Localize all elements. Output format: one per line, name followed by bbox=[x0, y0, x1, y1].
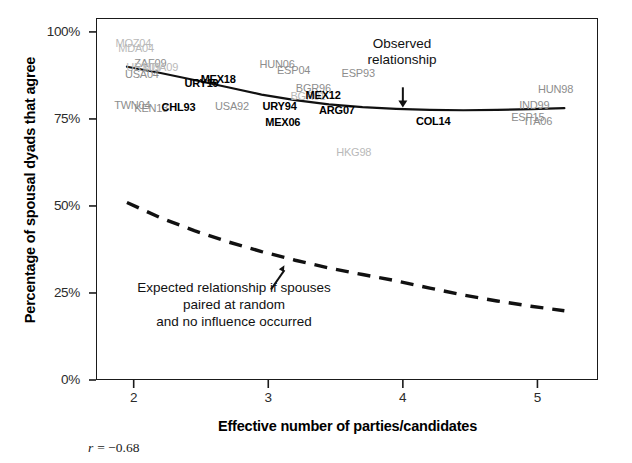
y-axis-tick-label: 50% bbox=[24, 198, 80, 213]
data-point-label: URY94 bbox=[263, 101, 297, 112]
data-point-label: ARG07 bbox=[319, 105, 355, 116]
y-axis-tick-label: 0% bbox=[24, 372, 80, 387]
annotation-observed-relationship: Observed relationship bbox=[337, 36, 467, 68]
x-axis-tick-label: 5 bbox=[517, 390, 557, 405]
data-point-label: ITA06 bbox=[525, 116, 553, 127]
x-axis-tick-label: 4 bbox=[383, 390, 423, 405]
figure-root: Percentage of spousal dyads that agree 0… bbox=[0, 0, 632, 463]
correlation-symbol: r bbox=[88, 440, 93, 455]
y-axis-tick-label: 75% bbox=[24, 111, 80, 126]
annotation-line: and no influence occurred bbox=[118, 314, 350, 331]
annotation-line: paired at random bbox=[118, 297, 350, 314]
annotation-line: Observed bbox=[337, 36, 467, 52]
annotation-line: relationship bbox=[337, 52, 467, 68]
data-point-label: MEX18 bbox=[201, 74, 236, 85]
x-axis-tick-label: 3 bbox=[248, 390, 288, 405]
data-point-label: IND99 bbox=[519, 100, 549, 111]
data-point-label: MEX06 bbox=[265, 117, 300, 128]
data-point-label: MEX12 bbox=[306, 90, 341, 101]
correlation-note: r= −0.68 bbox=[88, 440, 140, 456]
data-point-label: HUN98 bbox=[538, 84, 573, 95]
correlation-value: = −0.68 bbox=[97, 440, 139, 455]
data-point-label: HKG98 bbox=[336, 147, 371, 158]
x-axis-title: Effective number of parties/candidates bbox=[95, 418, 600, 434]
data-point-label: CHL93 bbox=[162, 102, 196, 113]
y-axis-tick-label: 100% bbox=[24, 24, 80, 39]
x-axis-tick-label: 2 bbox=[114, 390, 154, 405]
annotation-expected-relationship: Expected relationship if spouses paired … bbox=[118, 280, 350, 331]
data-point-label: COL14 bbox=[416, 116, 450, 127]
y-axis-tick-label: 25% bbox=[24, 285, 80, 300]
data-point-label: ESP93 bbox=[342, 68, 375, 79]
data-point-label: ESP04 bbox=[277, 65, 310, 76]
data-point-label: USA04 bbox=[125, 69, 159, 80]
data-point-label: USA92 bbox=[215, 101, 249, 112]
data-point-label: MDA04 bbox=[118, 43, 154, 54]
y-axis-title: Percentage of spousal dyads that agree bbox=[22, 10, 38, 370]
annotation-line: Expected relationship if spouses bbox=[118, 280, 350, 297]
